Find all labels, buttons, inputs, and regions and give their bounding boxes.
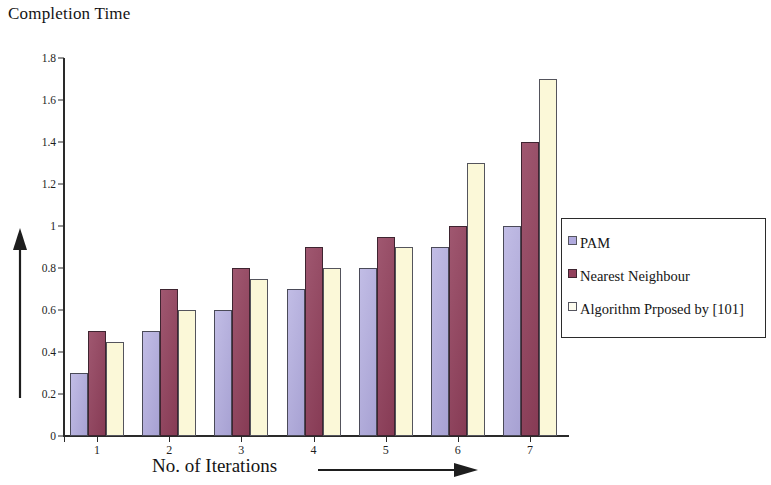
y-axis-tick-mark <box>58 436 64 437</box>
x-axis-tick-label: 4 <box>311 443 317 458</box>
bar <box>232 268 250 436</box>
bar <box>521 142 539 436</box>
bar <box>305 247 323 436</box>
legend-color-swatch <box>568 236 577 245</box>
bar <box>431 247 449 436</box>
y-axis-tick-mark <box>58 310 64 311</box>
legend-color-swatch <box>568 302 577 311</box>
x-axis-tick-label: 1 <box>94 443 100 458</box>
bar <box>178 310 196 436</box>
y-axis-tick-mark <box>58 184 64 185</box>
x-axis-tick-mark <box>458 437 459 442</box>
y-axis-tick-label: 1.8 <box>42 52 56 64</box>
x-axis-tick-label: 7 <box>527 443 533 458</box>
y-axis-tick-label: 0.8 <box>42 262 56 274</box>
legend-color-swatch <box>568 269 577 278</box>
y-axis-direction-arrow-icon <box>12 228 28 398</box>
bar <box>539 79 557 436</box>
bar <box>287 289 305 436</box>
x-axis-tick-mark <box>97 437 98 442</box>
bar <box>323 268 341 436</box>
legend-item: PAM <box>568 227 759 260</box>
x-axis-direction-arrow-icon <box>318 461 478 479</box>
y-axis-tick-label: 0.2 <box>42 388 56 400</box>
bar <box>359 268 377 436</box>
bar <box>250 279 268 437</box>
x-axis-tick-mark <box>241 437 242 442</box>
bar <box>88 331 106 436</box>
y-axis-tick-label: 1.6 <box>42 94 56 106</box>
y-axis-tick-label: 1 <box>50 220 56 232</box>
bar <box>467 163 485 436</box>
y-axis-tick-label: 0 <box>50 430 56 442</box>
bar <box>377 237 395 437</box>
y-axis-tick-mark <box>58 142 64 143</box>
y-axis-tick-mark <box>58 352 64 353</box>
bar <box>142 331 160 436</box>
y-axis-tick-labels: 00.20.40.60.811.21.41.61.8 <box>0 0 56 485</box>
y-axis-tick-label: 0.4 <box>42 346 56 358</box>
x-axis-tick-mark <box>314 437 315 442</box>
bar <box>214 310 232 436</box>
x-axis-tick-mark <box>169 437 170 442</box>
legend-item: Algorithm Prposed by [101] <box>568 293 759 326</box>
bar <box>70 373 88 436</box>
bar <box>106 342 124 437</box>
x-axis-tick-label: 5 <box>383 443 389 458</box>
y-axis-tick-mark <box>58 100 64 101</box>
chart-legend: PAMNearest NeighbourAlgorithm Prposed by… <box>561 218 766 338</box>
legend-label: Algorithm Prposed by [101] <box>580 302 744 317</box>
y-axis-tick-mark <box>58 268 64 269</box>
bar <box>449 226 467 436</box>
y-axis-tick-mark <box>58 394 64 395</box>
legend-label: PAM <box>580 236 610 251</box>
y-axis-tick-mark <box>58 226 64 227</box>
y-axis-tick-label: 1.4 <box>42 136 56 148</box>
legend-label: Nearest Neighbour <box>580 269 690 284</box>
y-axis-tick-mark <box>58 58 64 59</box>
y-axis-tick-label: 1.2 <box>42 178 56 190</box>
x-axis-tick-mark <box>386 437 387 442</box>
bar <box>160 289 178 436</box>
x-axis-label: No. of Iterations <box>152 455 277 477</box>
x-axis-tick-mark <box>530 437 531 442</box>
bars-layer <box>64 58 569 436</box>
bar <box>395 247 413 436</box>
x-axis-origin-tick-mark <box>64 437 65 442</box>
x-axis-tick-label: 6 <box>455 443 461 458</box>
legend-item: Nearest Neighbour <box>568 260 759 293</box>
y-axis-tick-label: 0.6 <box>42 304 56 316</box>
bar <box>503 226 521 436</box>
